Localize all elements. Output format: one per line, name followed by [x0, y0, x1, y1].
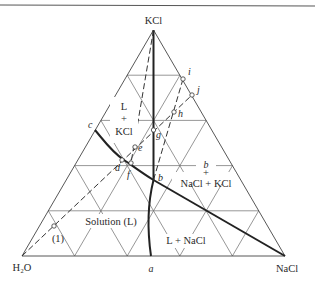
region-label-nacl-kcl: NaCl + KCl [181, 178, 232, 189]
point-label-e: e [138, 142, 143, 153]
point-label-1: (1) [52, 233, 65, 245]
point-label-a: a [149, 263, 154, 274]
point-label-c: c [88, 119, 93, 130]
region-label-l-nacl: L + NaCl [166, 235, 205, 246]
vertex-label-h2o: H₂O [13, 262, 32, 273]
region-label-plus: + [121, 113, 127, 124]
point-label-b: b [158, 172, 163, 183]
point-label-h: h [178, 108, 183, 119]
ternary-diagram: KCl H₂O NaCl L + KCl b + NaCl + KCl Solu… [0, 0, 315, 281]
region-label-solution: Solution (L) [85, 216, 137, 228]
top-rule [0, 5, 315, 6]
point-label-i: i [188, 66, 191, 77]
region-label-kcl: KCl [115, 126, 133, 137]
vertex-label-kcl: KCl [145, 15, 163, 26]
point-label-d: d [115, 162, 121, 173]
point-label-g: g [156, 129, 161, 140]
region-label-plus2: + [203, 167, 209, 178]
point-label-j: j [195, 84, 200, 95]
h2o-j-line [22, 95, 192, 256]
curve-a-b [148, 180, 153, 256]
vertex-label-nacl: NaCl [276, 263, 298, 274]
region-label-l: L [121, 101, 127, 112]
